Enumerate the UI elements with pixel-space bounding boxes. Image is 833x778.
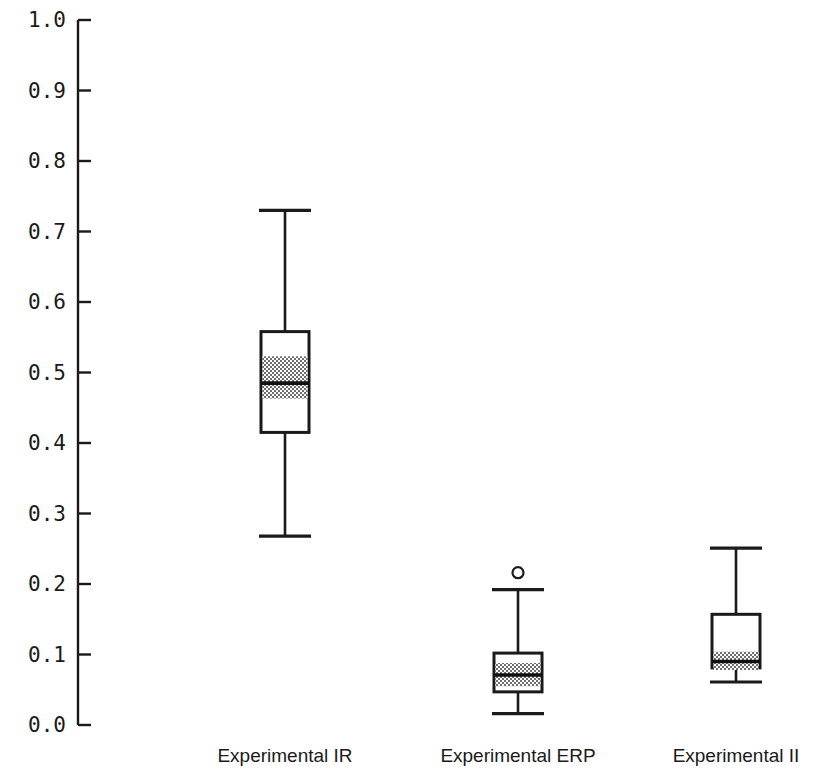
box-series-group	[259, 210, 762, 713]
y-axis-tick-label: 0.9	[28, 79, 66, 103]
box-plot-item	[259, 210, 311, 536]
median-confidence-notch	[263, 356, 308, 398]
x-axis-category-labels: Experimental IRExperimental ERPExperimen…	[217, 745, 799, 766]
x-axis-category-label: Experimental IR	[217, 745, 352, 766]
y-axis-tick-label: 0.6	[28, 290, 66, 314]
y-axis-tick-label: 0.5	[28, 361, 66, 385]
box-plot-item	[492, 567, 544, 714]
x-axis-category-label: Experimental ERP	[440, 745, 595, 766]
y-axis-tick-label: 0.8	[28, 149, 66, 173]
y-axis-tick-label: 0.4	[28, 431, 66, 455]
box-plot-figure: 1.00.90.80.70.60.50.40.30.20.10.0 Experi…	[0, 0, 833, 778]
box-plot-item	[710, 548, 762, 682]
outlier-point	[513, 567, 524, 578]
x-axis-category-label: Experimental II	[673, 745, 800, 766]
y-axis-tick-label: 0.1	[28, 643, 66, 667]
y-axis-tick-label: 0.2	[28, 572, 66, 596]
box-plot-canvas: 1.00.90.80.70.60.50.40.30.20.10.0 Experi…	[0, 0, 833, 778]
y-axis-tick-label: 1.0	[28, 8, 66, 32]
y-axis: 1.00.90.80.70.60.50.40.30.20.10.0	[28, 8, 91, 737]
y-axis-tick-label: 0.7	[28, 220, 66, 244]
y-axis-tick-label: 0.0	[28, 713, 66, 737]
y-axis-tick-label: 0.3	[28, 502, 66, 526]
